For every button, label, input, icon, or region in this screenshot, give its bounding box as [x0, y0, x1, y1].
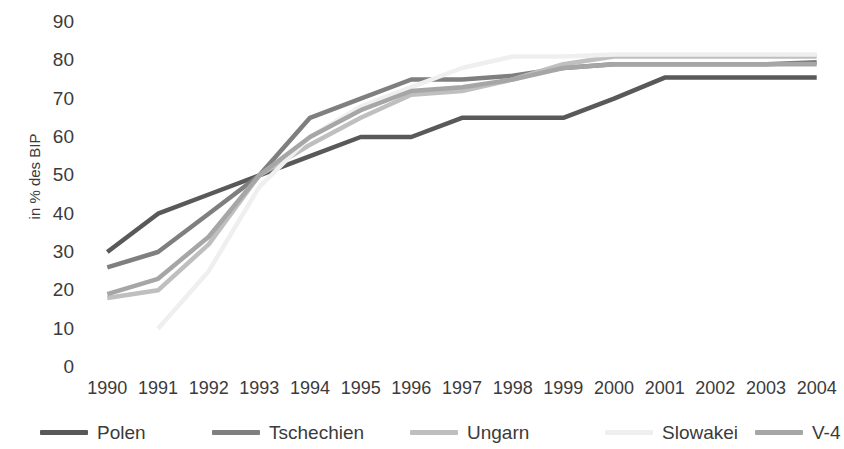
y-tick-label: 90: [26, 12, 74, 31]
y-tick-label: 50: [26, 165, 74, 184]
line-chart: in % des BIP 0102030405060708090 1990199…: [0, 0, 844, 449]
legend-item-tschechien[interactable]: Tschechien: [212, 418, 364, 446]
legend-label: Ungarn: [467, 423, 529, 442]
y-tick-label: 20: [26, 280, 74, 299]
plot-area: [82, 14, 842, 374]
legend-item-v-4[interactable]: V-4: [755, 418, 841, 446]
y-tick-label: 70: [26, 89, 74, 108]
legend-item-polen[interactable]: Polen: [40, 418, 146, 446]
legend-label: Slowakei: [662, 423, 738, 442]
y-tick-label: 80: [26, 50, 74, 69]
legend-color-swatch: [605, 430, 653, 435]
y-tick-label: 40: [26, 204, 74, 223]
y-axis-tick-labels: 0102030405060708090: [0, 0, 74, 380]
legend-item-ungarn[interactable]: Ungarn: [410, 418, 529, 446]
y-tick-label: 0: [26, 357, 74, 376]
y-tick-label: 60: [26, 127, 74, 146]
legend-label: Polen: [97, 423, 146, 442]
legend-label: Tschechien: [269, 423, 364, 442]
legend-color-swatch: [212, 430, 260, 435]
x-axis-tick-labels: 1990199119921993199419951996199719981999…: [82, 378, 842, 404]
series-line: [158, 55, 817, 329]
legend-item-slowakei[interactable]: Slowakei: [605, 418, 738, 446]
y-tick-label: 10: [26, 319, 74, 338]
series-lines: [82, 14, 842, 374]
legend-color-swatch: [410, 430, 458, 435]
legend-label: V-4: [812, 423, 841, 442]
chart-legend: PolenTschechienUngarnSlowakeiV-4: [0, 418, 844, 449]
legend-color-swatch: [755, 430, 803, 435]
x-tick-label: 2004: [785, 378, 844, 400]
y-tick-label: 30: [26, 242, 74, 261]
legend-color-swatch: [40, 430, 88, 435]
series-line: [107, 78, 816, 252]
